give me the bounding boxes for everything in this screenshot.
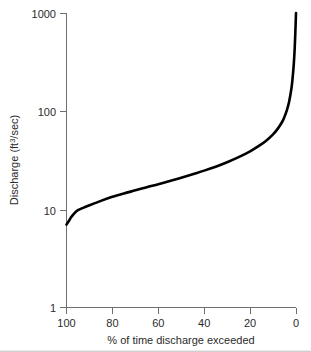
- y-tick-marks: [60, 14, 67, 308]
- y-axis-title-tail: /sec): [8, 115, 20, 139]
- x-tick-label-60: 60: [152, 317, 164, 329]
- x-tick-label-20: 20: [244, 317, 256, 329]
- x-tick-label-100: 100: [57, 317, 75, 329]
- y-tick-label-1: 1: [50, 302, 56, 314]
- x-axis-title: % of time discharge exceeded: [107, 334, 254, 346]
- flow-duration-chart: 1000 100 10 1 100 80 60 40 20 0 % of tim…: [0, 0, 311, 352]
- y-axis-title-base: Discharge (ft: [8, 143, 20, 205]
- y-axis-title: Discharge (ft3/sec): [8, 115, 21, 205]
- x-tick-label-40: 40: [198, 317, 210, 329]
- y-tick-label-1000: 1000: [32, 8, 56, 20]
- y-tick-label-10: 10: [44, 205, 56, 217]
- y-tick-label-100: 100: [38, 106, 56, 118]
- flow-duration-curve: [67, 13, 297, 225]
- x-tick-label-0: 0: [293, 317, 299, 329]
- x-tick-label-80: 80: [106, 317, 118, 329]
- x-tick-marks: [67, 308, 297, 315]
- svg-text:Discharge (ft3/sec): Discharge (ft3/sec): [8, 115, 21, 205]
- chart-canvas: 1000 100 10 1 100 80 60 40 20 0 % of tim…: [0, 0, 311, 352]
